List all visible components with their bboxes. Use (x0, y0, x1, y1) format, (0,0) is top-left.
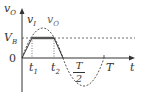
x-axis-label: t (130, 62, 134, 73)
waveform-plot (0, 0, 141, 110)
y-axis-label: vO (4, 3, 16, 14)
origin-label: 0 (9, 53, 16, 64)
vb-label: VB (4, 32, 17, 43)
curve-label-vo: vO (47, 14, 59, 25)
half-period-label: T 2 (73, 61, 85, 84)
x-axis-arrow-icon (129, 56, 135, 61)
y-axis-arrow-icon (20, 8, 25, 14)
curve-label-vi: vI (27, 14, 36, 25)
period-label: T (106, 62, 113, 73)
output-fall-segment (54, 38, 63, 58)
waveform-diagram: vO vI vO VB 0 t1 t2 T 2 T t (0, 0, 141, 110)
t2-label: t2 (51, 62, 60, 73)
t1-label: t1 (29, 62, 38, 73)
output-rise-segment (22, 38, 32, 58)
